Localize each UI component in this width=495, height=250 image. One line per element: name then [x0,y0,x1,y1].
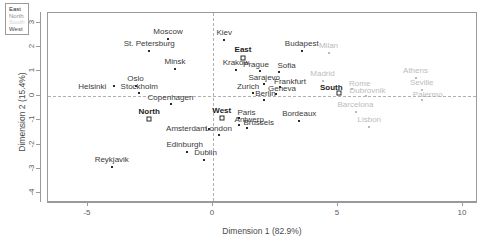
y-axis-tick [36,22,40,23]
y-axis-tick-label: -3 [27,163,36,173]
point-label-west: West [212,105,231,114]
point-label-stockholm: Stockholm [121,81,158,90]
correspondence-analysis-biplot: Dimension 2 (15.4%) 3210-1-2-3-4 -50510 … [0,0,495,250]
plot-inner: EastNorthWestSouthMoscowKievSt. Petersbu… [48,13,476,201]
point-label-moscow: Moscow [153,27,182,36]
data-point-st-petersburg [148,50,150,52]
y-axis-line [40,12,41,202]
y-axis-tick-label: -1 [27,114,36,124]
y-axis-title: Dimension 2 (15.4%) [17,52,27,172]
x-axis-line [47,202,477,203]
data-point-budapest [301,50,303,52]
point-label-prague: Prague [243,60,269,69]
y-axis-tick [36,95,40,96]
point-label-london: London [205,124,232,133]
data-point-sarajevo [263,83,265,85]
point-label-milan: Milan [319,41,338,50]
point-label-frankfurt: Frankfurt [274,77,306,86]
x-axis-tick-label: 0 [210,208,214,217]
legend-item-east[interactable]: East [9,6,25,13]
y-axis-tick-label: -2 [27,139,36,149]
point-label-brussels: Brussels [243,117,274,126]
data-point-brussels [246,127,248,129]
point-label-sofia: Sofia [277,60,295,69]
data-point-krakow [235,69,237,71]
point-label-athens: Athens [403,66,428,75]
data-point-barcelona [355,111,357,113]
x-axis-title: Dimension 1 (82.9%) [47,226,477,236]
data-point-minsk [174,68,176,70]
y-axis-tick [36,119,40,120]
point-label-bordeaux: Bordeaux [282,108,316,117]
data-point-antwerp [238,124,240,126]
y-axis-tick-label: 1 [27,65,36,75]
x-axis-tick [212,202,213,206]
y-axis-tick [36,192,40,193]
legend[interactable]: EastNorthSouthWest [5,3,29,35]
legend-item-south[interactable]: South [9,19,25,26]
y-axis-tick [36,70,40,71]
point-label-palermo: Palermo [413,90,443,99]
point-label-helsinki: Helsinki [78,82,106,91]
data-point-reykjavik [111,166,113,168]
data-point-dubrovnik [365,95,367,97]
data-point-lisbon [368,126,370,128]
data-point-edinburgh [186,151,188,153]
data-point-copenhagen [170,103,172,105]
data-point-dublin [203,159,205,161]
point-label-kiev: Kiev [216,27,232,36]
x-axis-tick [462,202,463,206]
x-axis-tick-label: 10 [458,208,467,217]
point-label-barcelona: Barcelona [337,100,373,109]
point-label-dubrovnik: Dubrovnik [349,85,385,94]
x-axis-tick [87,202,88,206]
data-point-berlin [263,99,265,101]
legend-item-north[interactable]: North [9,13,25,20]
y-axis-tick [36,144,40,145]
point-label-north: North [139,106,160,115]
point-label-seville: Seville [410,78,434,87]
legend-item-west[interactable]: West [9,26,25,33]
data-point-north [147,116,152,121]
data-point-west [219,115,224,120]
data-point-stockholm [138,92,140,94]
point-label-copenhagen: Copenhagen [148,93,194,102]
point-label-minsk: Minsk [165,56,186,65]
plot-area: EastNorthWestSouthMoscowKievSt. Petersbu… [47,12,477,202]
data-point-kiev [223,39,225,41]
data-point-frankfurt [279,86,281,88]
y-axis-tick [36,168,40,169]
data-point-bordeaux [298,120,300,122]
point-label-st-petersburg: St. Petersburg [124,39,175,48]
y-axis-tick [36,46,40,47]
point-label-madrid: Madrid [310,68,334,77]
y-axis-tick-label: 2 [27,41,36,51]
point-label-budapest: Budapest [285,39,319,48]
x-axis-tick-label: -5 [83,208,90,217]
point-label-berlin: Berlin [255,89,275,98]
point-label-reykjavik: Reykjavik [95,154,129,163]
data-point-madrid [322,80,324,82]
point-label-south: South [320,82,343,91]
data-point-helsinki [113,85,115,87]
point-label-east: East [235,45,252,54]
y-axis-tick-label: 0 [27,90,36,100]
data-point-zurich [252,92,254,94]
data-point-milan [328,52,330,54]
y-axis-tick-label: -4 [27,187,36,197]
data-point-london [218,134,220,136]
point-label-dublin: Dublin [194,147,217,156]
x-axis-tick [337,202,338,206]
x-axis-tick-label: 5 [335,208,339,217]
data-point-palermo [421,99,423,101]
point-label-amsterdam: Amsterdam [166,124,207,133]
point-label-lisbon: Lisbon [357,115,381,124]
